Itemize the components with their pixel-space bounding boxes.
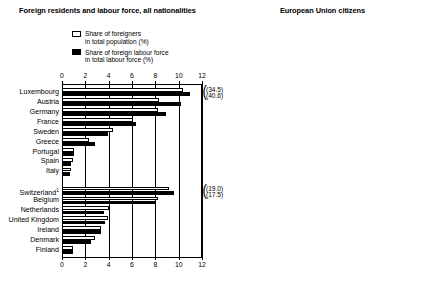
bar-share-labour-force xyxy=(62,102,181,106)
x-tick-label: 6 xyxy=(130,72,134,79)
legend-swatch-solid-icon xyxy=(72,49,81,55)
legend-left: Share of foreigners in total population … xyxy=(72,30,169,67)
legend-item-foreign-labour-force: Share of foreign labour force in total l… xyxy=(72,49,169,64)
x-tick-mark xyxy=(179,257,180,261)
gridline xyxy=(179,84,180,257)
category-label-germany: Germany xyxy=(1,108,59,116)
x-tick-mark xyxy=(155,257,156,261)
panel-right-title: European Union citizens xyxy=(215,6,430,15)
x-tick-label: 0 xyxy=(60,261,64,268)
bar-share-labour-force xyxy=(62,112,166,116)
x-tick-mark xyxy=(202,257,203,261)
legend-item-foreigners-population: Share of foreigners in total population … xyxy=(72,30,169,45)
x-tick-label: 2 xyxy=(83,72,87,79)
category-label-greece: Greece xyxy=(1,138,59,146)
x-tick-label: 4 xyxy=(107,261,111,268)
x-tick-mark xyxy=(132,257,133,261)
annotation-brace: ( xyxy=(203,182,207,198)
footnote-marker: 1 xyxy=(56,187,59,193)
plot-area-left: 024681012LuxembourgAustriaGermanyFranceS… xyxy=(62,84,202,271)
x-tick-label: 10 xyxy=(175,261,183,268)
x-tick-mark xyxy=(109,257,110,261)
chart-figure: Foreign residents and labour force, all … xyxy=(0,0,430,290)
category-label-luxembourg: Luxembourg xyxy=(1,88,59,96)
x-tick-label: 4 xyxy=(107,72,111,79)
bar-share-labour-force xyxy=(62,92,190,96)
bar-share-labour-force xyxy=(62,221,105,225)
category-label-sweden: Sweden xyxy=(1,128,59,136)
gridline xyxy=(202,84,203,257)
category-label-united-kingdom: United Kingdom xyxy=(1,216,59,224)
category-label-portugal: Portugal xyxy=(1,148,59,156)
annotation-brace: ( xyxy=(203,83,207,99)
chart-panel-left: Foreign residents and labour force, all … xyxy=(0,0,215,290)
x-tick-label: 8 xyxy=(153,72,157,79)
category-label-france: France xyxy=(1,118,59,126)
category-label-ireland: Ireland xyxy=(1,226,59,234)
x-tick-mark xyxy=(85,257,86,261)
bar-share-labour-force xyxy=(62,240,91,244)
bar-share-labour-force xyxy=(62,132,108,136)
category-label-netherlands: Netherlands xyxy=(1,206,59,214)
category-label-italy: Italy xyxy=(1,167,59,175)
x-tick-mark xyxy=(62,257,63,261)
bar-share-labour-force xyxy=(62,172,70,176)
x-tick-label: 0 xyxy=(60,72,64,79)
category-label-belgium: Belgium xyxy=(1,196,59,204)
category-label-finland: Finland xyxy=(1,246,59,254)
category-label-spain: Spain xyxy=(1,157,59,165)
bar-share-labour-force xyxy=(62,211,104,215)
bar-share-labour-force xyxy=(62,142,95,146)
x-tick-label: 12 xyxy=(198,261,206,268)
panel-left-title: Foreign residents and labour force, all … xyxy=(0,6,215,15)
bar-share-labour-force xyxy=(62,152,74,156)
category-label-austria: Austria xyxy=(1,98,59,106)
bar-share-labour-force xyxy=(62,191,174,195)
bar-share-labour-force xyxy=(62,250,73,254)
x-tick-label: 12 xyxy=(198,72,206,79)
bar-share-labour-force xyxy=(62,162,71,166)
x-tick-label: 10 xyxy=(175,72,183,79)
legend-label-foreign-labour-force: Share of foreign labour force in total l… xyxy=(85,49,169,64)
x-tick-label: 6 xyxy=(130,261,134,268)
legend-label-foreigners-population: Share of foreigners in total population … xyxy=(85,30,149,45)
bar-share-labour-force xyxy=(62,201,155,205)
x-tick-label: 8 xyxy=(153,261,157,268)
x-tick-label: 2 xyxy=(83,261,87,268)
bar-share-labour-force xyxy=(62,122,136,126)
chart-panel-right: European Union citizens Share of EU citi… xyxy=(215,0,430,290)
x-axis-ticklabels-bottom: 024681012 xyxy=(62,261,202,271)
legend-swatch-open-icon xyxy=(72,31,81,37)
category-label-denmark: Denmark xyxy=(1,236,59,244)
plot-right-border xyxy=(201,84,202,257)
bar-share-labour-force xyxy=(62,230,101,234)
